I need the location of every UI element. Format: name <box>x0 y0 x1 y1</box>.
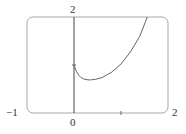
x-max-label: 2 <box>172 107 178 118</box>
function-curve <box>74 17 147 80</box>
plot-area <box>0 0 186 134</box>
x-min-label: −1 <box>6 107 18 118</box>
y-max-label: 2 <box>70 4 76 15</box>
x-zero-label: 0 <box>70 117 76 128</box>
viewing-window-frame <box>27 17 168 113</box>
